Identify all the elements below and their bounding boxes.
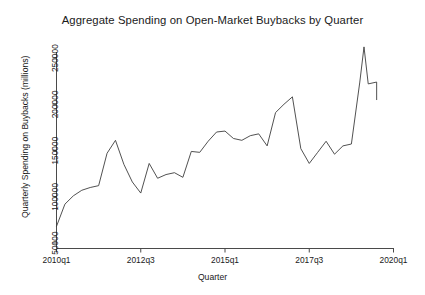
chart-figure: Aggregate Spending on Open-Market Buybac… [0, 0, 425, 295]
x-tick-label: 2015q1 [195, 255, 255, 265]
x-tick-label: 2012q3 [111, 255, 171, 265]
x-tick-label: 2020q1 [364, 255, 424, 265]
y-tick-label: 250000 [50, 44, 60, 72]
x-tick-label: 2010q1 [27, 255, 87, 265]
plot-area [0, 0, 425, 295]
x-axis-title: Quarter [0, 272, 425, 282]
x-tick-label: 2017q3 [279, 255, 339, 265]
y-tick-label: 200000 [50, 90, 60, 118]
y-axis-title: Quarterly Spending on Buybacks (millions… [20, 56, 30, 218]
y-tick-label: 50000 [50, 231, 60, 254]
y-tick-label: 100000 [50, 183, 60, 211]
data-series-line [57, 47, 377, 226]
y-tick-label: 150000 [50, 137, 60, 165]
x-axis-ticks [57, 249, 394, 253]
